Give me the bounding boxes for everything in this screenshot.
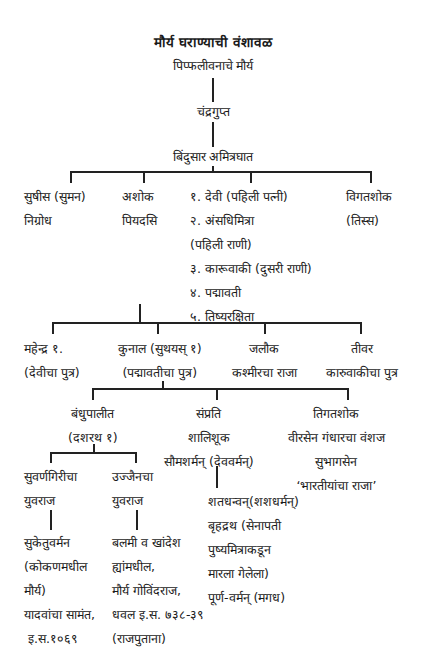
connector-line	[216, 466, 218, 488]
node-line: पूर्ण-वर्मन् (मगध)	[208, 586, 299, 610]
node-line: (राजपुताना)	[112, 627, 204, 651]
node-line: अशोक	[122, 185, 157, 209]
node-line: जलौक	[232, 337, 297, 361]
node-line: ५. तिष्यरक्षिता	[190, 305, 312, 329]
node-ashoka: अशोक पियदसि	[122, 185, 157, 233]
node-line: ४. पद्मावती	[190, 281, 312, 305]
node-line: २. अंसधिमित्रा	[190, 209, 312, 233]
connector-line	[264, 322, 266, 334]
node-line: उज्जैनचा	[112, 465, 153, 489]
node-line: तिगतशोक	[288, 402, 385, 426]
node-line: मौर्य)	[24, 579, 95, 603]
node-balami: बलमी व खांदेश ह्यांमधील, मौर्य गोविंदराज…	[112, 531, 204, 651]
node-susima: सुषीस (सुमन) निग्रोध	[24, 185, 86, 233]
node-line: सौमशर्मन् (देववर्मन्)	[164, 450, 254, 474]
node-suvarnagiri: सुवर्णगिरीचा युवराज	[24, 465, 77, 513]
node-line: विगतशोक	[346, 185, 392, 209]
node-line: सुभागसेन	[288, 450, 385, 474]
connector-line	[70, 171, 72, 183]
node-shatadhanvan: शतधन्वन्(शशधर्मन्) बृहद्रथ (सेनापती पुष्…	[208, 490, 299, 610]
node-queens: १. देवी (पहिली पत्नी) २. अंसधिमित्रा (पह…	[190, 185, 312, 329]
connector-line	[347, 388, 349, 400]
node-line: (पहिली राणी)	[190, 233, 312, 257]
connector-line	[143, 171, 145, 183]
node-origin: पिप्फलीवनाचे मौर्य	[173, 58, 254, 74]
node-tivara: तीवर कारुवाकीचा पुत्र	[326, 337, 398, 385]
node-jalauka: जलौक कश्मीरचा राजा	[232, 337, 297, 385]
connector-line	[360, 322, 362, 334]
node-samprati: संप्रति शालिशूक सौमशर्मन् (देववर्मन्)	[164, 402, 254, 474]
connector-line	[92, 388, 94, 400]
node-line: सुवर्णगिरीचा	[24, 465, 77, 489]
node-vigatashoka: विगतशोक (तिस्स)	[346, 185, 392, 233]
node-tigatashoka: तिगतशोक वीरसेन गंधारचा वंशज सुभागसेन ‘भा…	[288, 402, 385, 498]
node-line: बृहद्रथ (सेनापती	[208, 514, 299, 538]
node-line: महेन्द्र १.	[24, 337, 80, 361]
node-bandhupalita: बंधुपालीत (दशरथ १)	[68, 402, 118, 450]
node-line: ३. कारूवाकी (दुसरी राणी)	[190, 257, 312, 281]
node-line: मारला गेलेला)	[208, 562, 299, 586]
node-line: कारुवाकीचा पुत्र	[326, 361, 398, 385]
node-line: सुकेतुवर्मन	[24, 531, 95, 555]
connector-line	[212, 78, 214, 102]
node-bindusara: बिंदुसार अमित्रघात	[173, 149, 254, 165]
connector-line	[139, 304, 141, 324]
connector-line	[157, 322, 159, 334]
sibling-bracket	[92, 388, 349, 390]
node-line: वीरसेन गंधारचा वंशज	[288, 426, 385, 450]
node-line: मौर्य गोविंदराज,	[112, 579, 204, 603]
node-line: संप्रति	[164, 402, 254, 426]
connector-line	[50, 452, 52, 463]
node-line: युवराज	[112, 489, 153, 513]
node-line: कश्मीरचा राजा	[232, 361, 297, 385]
node-line: बलमी व खांदेश	[112, 531, 204, 555]
node-line: शतधन्वन्(शशधर्मन्)	[208, 490, 299, 514]
node-line: ‘भारतीयांचा राजा’	[288, 474, 385, 498]
node-line: (तिस्स)	[346, 209, 392, 233]
node-kunala: कुनाल (सुथयस् १) (पद्मावतीचा पुत्र)	[118, 337, 202, 385]
node-chandragupta: चंद्रगुप्त	[197, 104, 230, 120]
node-line: धवल इ.स. ७३८-३९	[112, 603, 204, 627]
node-line: तीवर	[326, 337, 398, 361]
diagram-title: मौर्य घराण्याची वंशावळ	[154, 34, 271, 50]
node-line: ह्यांमधील,	[112, 555, 204, 579]
node-line: बंधुपालीत	[68, 402, 118, 426]
sibling-bracket	[50, 452, 137, 454]
connector-line	[250, 171, 252, 183]
node-line: इ.स.१०६९	[24, 627, 95, 651]
connector-line	[136, 510, 138, 530]
connector-line	[135, 452, 137, 463]
node-line: पियदसि	[122, 209, 157, 233]
node-line: पुष्यमित्राकडून	[208, 538, 299, 562]
node-line: (पद्मावतीचा पुत्र)	[118, 361, 202, 385]
node-line: शालिशूक	[164, 426, 254, 450]
connector-line	[50, 510, 52, 530]
sibling-bracket	[52, 322, 362, 324]
connector-line	[212, 122, 214, 147]
node-line: सुषीस (सुमन)	[24, 185, 86, 209]
node-line: यादवांचा सामंत,	[24, 603, 95, 627]
node-line: कुनाल (सुथयस् १)	[118, 337, 202, 361]
connector-line	[216, 388, 218, 400]
node-ujjain: उज्जैनचा युवराज	[112, 465, 153, 513]
node-line: निग्रोध	[24, 209, 86, 233]
node-line: १. देवी (पहिली पत्नी)	[190, 185, 312, 209]
node-line: (कोकणमधील	[24, 555, 95, 579]
connector-line	[370, 171, 372, 183]
node-mahendra: महेन्द्र १. (देवीचा पुत्र)	[24, 337, 80, 385]
connector-line	[52, 322, 54, 334]
node-suketuvarman: सुकेतुवर्मन (कोकणमधील मौर्य) यादवांचा सा…	[24, 531, 95, 651]
sibling-bracket	[70, 171, 372, 173]
node-line: (देवीचा पुत्र)	[24, 361, 80, 385]
